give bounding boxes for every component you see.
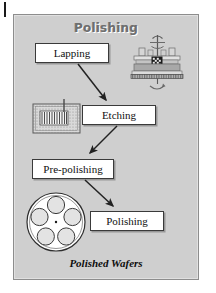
process-box-pre-polishing[interactable]: Pre-polishing <box>32 159 114 179</box>
registration-tick-mark <box>4 2 6 17</box>
process-box-etching-label: Etching <box>102 109 136 121</box>
process-box-etching[interactable]: Etching <box>82 105 156 125</box>
diagram-caption: Polished Wafers <box>14 257 198 269</box>
diagram-title: Polishing <box>14 21 198 35</box>
process-box-pre-polishing-label: Pre-polishing <box>43 163 102 175</box>
process-box-polishing[interactable]: Polishing <box>90 211 164 231</box>
process-box-lapping[interactable]: Lapping <box>35 43 109 63</box>
process-box-lapping-label: Lapping <box>54 47 91 59</box>
process-box-polishing-label: Polishing <box>106 215 148 227</box>
